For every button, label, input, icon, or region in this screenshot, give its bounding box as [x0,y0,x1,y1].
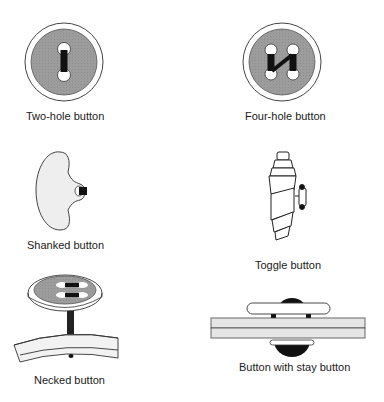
two-hole-button-illustration [25,23,103,101]
necked-button-illustration [14,275,118,362]
button-types-diagram [0,0,384,402]
toggle-button-label: Toggle button [255,259,321,271]
toggle-button-illustration [269,152,306,240]
necked-button-label: Necked button [34,374,105,386]
four-hole-button-illustration [243,23,321,101]
two-hole-button-label: Two-hole button [26,110,104,122]
shanked-button-label: Shanked button [27,239,104,251]
stay-button-illustration [211,298,365,357]
stay-button-label: Button with stay button [239,361,350,373]
shanked-button-illustration [36,152,87,230]
four-hole-button-label: Four-hole button [245,110,326,122]
